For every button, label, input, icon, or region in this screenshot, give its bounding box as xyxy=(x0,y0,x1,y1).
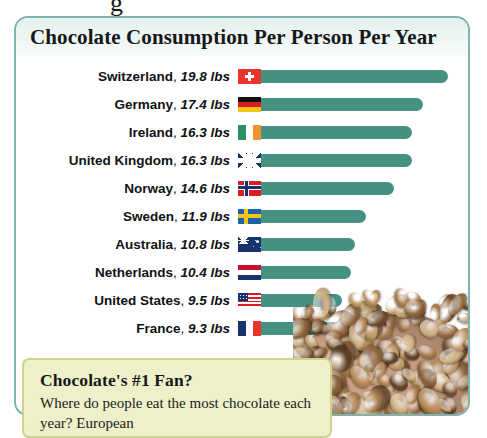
chart-row: United Kingdom, 16.3 lbs xyxy=(16,146,468,174)
country-value: 16.3 lbs xyxy=(180,125,230,140)
flag-switzerland-icon xyxy=(238,69,261,84)
bar xyxy=(260,70,448,83)
callout-box: Chocolate's #1 Fan? Where do people eat … xyxy=(22,358,332,438)
chart-row: Switzerland, 19.8 lbs xyxy=(16,62,468,90)
row-label: Sweden, 11.9 lbs xyxy=(16,209,238,224)
row-label: Switzerland, 19.8 lbs xyxy=(16,69,238,84)
chart-row: Ireland, 16.3 lbs xyxy=(16,118,468,146)
callout-heading: Chocolate's #1 Fan? xyxy=(40,370,316,391)
flag-norway-icon xyxy=(238,181,261,196)
callout-body: Where do people eat the most chocolate e… xyxy=(40,394,316,434)
row-label: Australia, 10.8 lbs xyxy=(16,237,238,252)
country-value: 10.4 lbs xyxy=(180,265,230,280)
row-label: Norway, 14.6 lbs xyxy=(16,181,238,196)
country-value: 19.8 lbs xyxy=(180,69,230,84)
row-label: United Kingdom, 16.3 lbs xyxy=(16,153,238,168)
page-title: Chocolate Consumption Per Person Per Yea… xyxy=(16,25,437,50)
row-label: Ireland, 16.3 lbs xyxy=(16,125,238,140)
country-name: Ireland xyxy=(129,125,173,140)
country-name: United States xyxy=(94,293,180,308)
country-name: France xyxy=(136,321,180,336)
flag-germany-icon xyxy=(238,97,261,112)
flag-sweden-icon xyxy=(238,209,261,224)
country-name: Netherlands xyxy=(95,265,173,280)
country-value: 10.8 lbs xyxy=(180,237,230,252)
bar xyxy=(260,126,412,139)
country-name: Sweden xyxy=(123,209,174,224)
bar xyxy=(260,182,394,195)
row-label: Netherlands, 10.4 lbs xyxy=(16,265,238,280)
country-value: 16.3 lbs xyxy=(180,153,230,168)
cocoa-bean xyxy=(397,317,411,333)
chart-row: Norway, 14.6 lbs xyxy=(16,174,468,202)
chart-row: Sweden, 11.9 lbs xyxy=(16,202,468,230)
flag-ireland-icon xyxy=(238,125,261,140)
chart-card: Chocolate Consumption Per Person Per Yea… xyxy=(14,16,470,416)
bar xyxy=(260,98,423,111)
flag-netherlands-icon xyxy=(238,265,261,280)
country-value: 11.9 lbs xyxy=(181,209,230,224)
chart-row: Germany, 17.4 lbs xyxy=(16,90,468,118)
country-value: 9.3 lbs xyxy=(188,321,230,336)
country-value: 17.4 lbs xyxy=(180,97,230,112)
country-name: Switzerland xyxy=(98,69,173,84)
country-name: Australia xyxy=(115,237,173,252)
row-label: France, 9.3 lbs xyxy=(16,321,238,336)
country-name: Norway xyxy=(124,181,173,196)
cocoa-bean xyxy=(415,343,438,362)
flag-france-icon xyxy=(238,321,261,336)
bar xyxy=(260,154,412,167)
country-value: 14.6 lbs xyxy=(180,181,230,196)
bar xyxy=(260,210,366,223)
flag-australia-icon xyxy=(238,237,261,252)
country-value: 9.5 lbs xyxy=(188,293,230,308)
row-label: United States, 9.5 lbs xyxy=(16,293,238,308)
bar xyxy=(260,238,355,251)
country-name: Germany xyxy=(114,97,173,112)
flag-united-kingdom-icon xyxy=(238,153,261,168)
flag-united-states-icon xyxy=(238,293,261,308)
chart-row: Australia, 10.8 lbs xyxy=(16,230,468,258)
country-name: United Kingdom xyxy=(69,153,173,168)
card-header: Chocolate Consumption Per Person Per Yea… xyxy=(16,18,468,56)
row-label: Germany, 17.4 lbs xyxy=(16,97,238,112)
